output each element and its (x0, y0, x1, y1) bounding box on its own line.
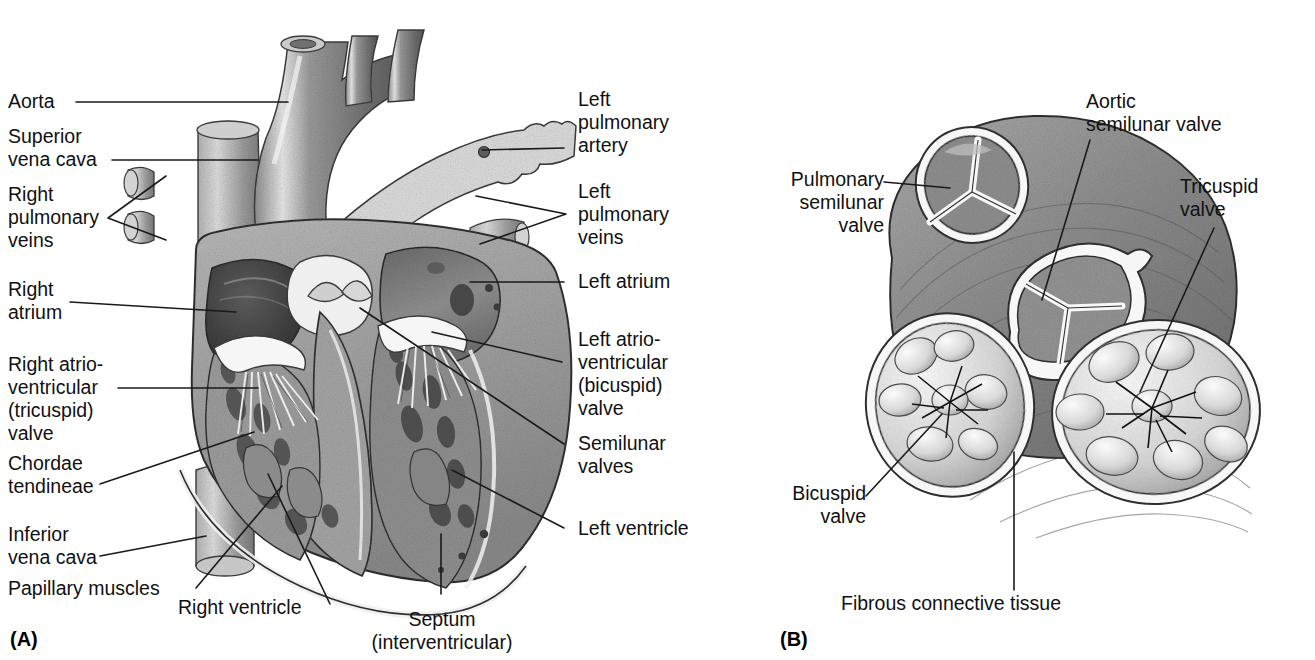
label-tricuspid-valve: Tricuspid valve (1180, 175, 1258, 221)
label-aortic-semilunar-valve: Aortic semilunar valve (1086, 90, 1221, 136)
label-papillary-muscles: Papillary muscles (8, 577, 160, 600)
label-septum-interventricular: Septum (interventricular) (352, 608, 532, 654)
heart-anatomy-figure: Aorta Superior vena cava Right pulmonary… (0, 0, 1315, 660)
label-left-av-bicuspid-valve: Left atrio- ventricular (bicuspid) valve (578, 328, 668, 420)
label-left-pulmonary-veins: Left pulmonary veins (578, 180, 669, 249)
label-inferior-vena-cava: Inferior vena cava (8, 523, 97, 569)
label-semilunar-valves: Semilunar valves (578, 432, 666, 478)
panel-a-caption: (A) (10, 628, 38, 651)
label-right-av-tricuspid-valve: Right atrio- ventricular (tricuspid) val… (8, 353, 103, 445)
label-left-pulmonary-artery: Left pulmonary artery (578, 88, 669, 157)
leader-inferior-vena-cava (100, 536, 206, 556)
label-fibrous-connective-tissue: Fibrous connective tissue (841, 592, 1061, 615)
panel-a-illustration (124, 30, 576, 615)
label-left-atrium: Left atrium (578, 270, 670, 293)
panel-b-caption: (B) (780, 628, 808, 651)
label-aorta: Aorta (8, 90, 55, 113)
label-pulmonary-semilunar-valve: Pulmonary semilunar valve (744, 168, 884, 237)
label-right-pulmonary-veins: Right pulmonary veins (8, 183, 99, 252)
label-left-ventricle: Left ventricle (578, 517, 689, 540)
label-superior-vena-cava: Superior vena cava (8, 125, 97, 171)
label-bicuspid-valve: Bicuspid valve (744, 482, 866, 528)
label-right-ventricle: Right ventricle (178, 596, 302, 619)
label-right-atrium: Right atrium (8, 278, 62, 324)
label-chordae-tendineae: Chordae tendineae (8, 452, 94, 498)
aortic-arch-branch-2 (388, 30, 424, 102)
